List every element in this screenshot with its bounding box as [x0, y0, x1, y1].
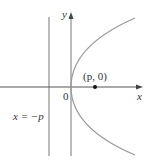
focus-point	[93, 85, 97, 89]
parabola-diagram: y x 0 (p, 0) x = −p	[0, 0, 152, 166]
directrix-label: x = −p	[12, 110, 44, 122]
origin-label: 0	[63, 90, 69, 102]
x-axis-arrow-icon	[136, 85, 143, 90]
focus-label: (p, 0)	[83, 70, 107, 83]
y-axis-label: y	[61, 8, 67, 20]
y-axis-arrow-icon	[69, 12, 74, 19]
x-axis-label: x	[136, 90, 142, 102]
